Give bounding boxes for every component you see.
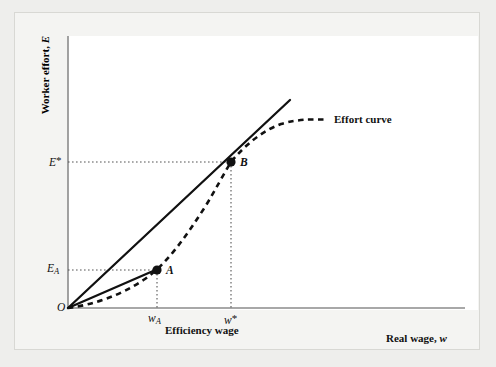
y-tick-e-star: E*	[49, 155, 62, 168]
ray-through-a	[68, 268, 160, 308]
x-tick-w-a-main: w	[148, 312, 156, 324]
marker-point-b	[226, 157, 235, 166]
effort-curve-label: Effort curve	[334, 114, 392, 125]
x-axis-title: Real wage, w	[386, 333, 447, 344]
y-axis-title-symbol: E	[39, 36, 51, 43]
tangent-ray-through-b	[68, 100, 290, 308]
point-a-label: A	[166, 265, 174, 277]
y-tick-e-a-main: E	[47, 262, 54, 274]
efficiency-wage-caption: Efficiency wage	[165, 325, 239, 336]
figure-root: Worker effort, E Real wage, w Efficiency…	[0, 0, 496, 367]
x-tick-w-star-super: *	[232, 312, 238, 324]
x-tick-w-a-sub: A	[156, 316, 161, 326]
y-tick-e-star-super: *	[56, 154, 62, 166]
origin-label: O	[57, 302, 65, 314]
x-tick-w-a: wA	[148, 313, 161, 326]
effort-curve	[68, 120, 308, 309]
y-axis-title: Worker effort, E	[39, 36, 51, 114]
y-tick-e-a-sub: A	[54, 266, 59, 276]
marker-point-a	[152, 265, 161, 274]
y-tick-e-star-main: E	[49, 156, 56, 168]
chart-canvas	[0, 0, 496, 367]
x-tick-w-star-main: w	[224, 314, 232, 326]
y-axis-title-wrap: Worker effort, E	[26, 36, 42, 176]
x-tick-w-star: w*	[224, 313, 237, 326]
point-b-label: B	[240, 157, 248, 169]
y-axis-title-text: Worker effort,	[39, 43, 51, 114]
x-axis-title-symbol: w	[439, 332, 446, 344]
x-axis-title-text: Real wage,	[386, 332, 439, 344]
y-tick-e-a: EA	[47, 263, 59, 276]
